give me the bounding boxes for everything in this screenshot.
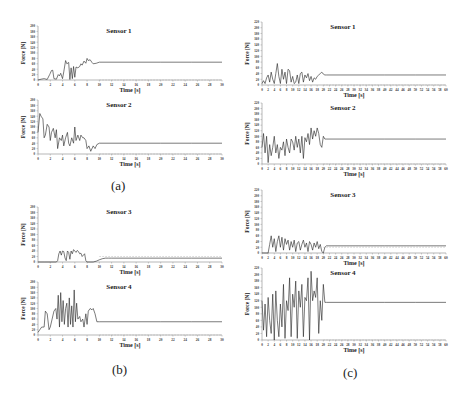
x-tick-label: 42 [389, 343, 393, 347]
x-tick-label: 56 [432, 256, 436, 260]
x-tick-label: 18 [316, 167, 320, 171]
y-tick-label: 180 [254, 279, 259, 283]
x-tick-label: 24 [334, 256, 338, 260]
x-tick-label: 18 [147, 265, 151, 269]
x-tick-label: 24 [184, 157, 188, 161]
x-tick-label: 46 [401, 88, 405, 92]
y-tick-label: 140 [30, 41, 35, 45]
x-tick-label: 60 [444, 343, 448, 347]
x-tick-label: 12 [110, 338, 114, 342]
x-tick-label: 38 [377, 256, 381, 260]
y-tick-label: 40 [32, 249, 36, 253]
y-tick-label: 140 [30, 222, 35, 226]
y-tick-label: 40 [256, 72, 260, 76]
x-tick-label: 48 [408, 167, 412, 171]
x-tick-label: 24 [184, 265, 188, 269]
x-tick-label: 26 [340, 343, 344, 347]
y-tick-label: 20 [256, 246, 260, 250]
x-tick-label: 34 [365, 88, 369, 92]
y-tick-label: 120 [254, 49, 259, 53]
chart-5: 0204060801001201401601802002200246810121… [244, 20, 448, 99]
x-tick-label: 22 [328, 256, 332, 260]
x-tick-label: 28 [208, 265, 212, 269]
y-tick-label: 0 [33, 78, 35, 82]
y-tick-label: 60 [32, 136, 36, 140]
x-tick-label: 22 [171, 83, 175, 87]
x-tick-label: 0 [261, 256, 263, 260]
y-tick-label: 40 [32, 323, 36, 327]
x-tick-label: 8 [86, 83, 88, 87]
x-tick-label: 14 [122, 157, 126, 161]
x-tick-label: 20 [159, 338, 163, 342]
x-tick-label: 0 [37, 83, 39, 87]
y-axis-label: Force [N] [244, 122, 250, 145]
x-tick-label: 6 [280, 88, 282, 92]
x-tick-label: 12 [110, 265, 114, 269]
y-axis-label: Force [N] [20, 42, 26, 65]
x-tick-label: 0 [261, 167, 263, 171]
x-tick-label: 14 [303, 343, 307, 347]
y-tick-label: 80 [256, 228, 260, 232]
chart-8: 0204060801001201401601802002200246810121… [244, 266, 448, 354]
y-tick-label: 180 [30, 104, 35, 108]
x-tick-label: 26 [196, 338, 200, 342]
x-tick-label: 52 [420, 343, 424, 347]
x-tick-label: 32 [358, 167, 362, 171]
y-tick-label: 80 [32, 312, 36, 316]
y-tick-label: 40 [32, 68, 36, 72]
y-tick-label: 120 [30, 120, 35, 124]
x-tick-label: 8 [286, 256, 288, 260]
y-tick-label: 60 [256, 146, 260, 150]
y-tick-label: 0 [33, 260, 35, 264]
x-tick-label: 36 [371, 343, 375, 347]
x-tick-label: 4 [62, 265, 64, 269]
x-tick-label: 54 [426, 167, 430, 171]
y-tick-label: 80 [256, 140, 260, 144]
y-tick-label: 20 [32, 328, 36, 332]
x-tick-label: 54 [426, 256, 430, 260]
x-tick-label: 58 [438, 167, 442, 171]
y-tick-label: 140 [254, 292, 259, 296]
x-tick-label: 40 [383, 256, 387, 260]
y-tick-label: 180 [254, 32, 259, 36]
x-tick-label: 30 [352, 256, 356, 260]
x-tick-label: 18 [147, 338, 151, 342]
x-tick-label: 12 [110, 83, 114, 87]
y-tick-label: 0 [257, 251, 259, 255]
x-tick-label: 44 [395, 343, 399, 347]
y-tick-label: 0 [33, 152, 35, 156]
x-tick-label: 36 [371, 88, 375, 92]
y-tick-label: 100 [254, 135, 259, 139]
y-tick-label: 120 [254, 217, 259, 221]
x-tick-label: 38 [377, 343, 381, 347]
x-tick-label: 48 [408, 88, 412, 92]
x-tick-label: 22 [328, 88, 332, 92]
x-tick-label: 8 [86, 157, 88, 161]
x-tick-label: 16 [134, 83, 138, 87]
x-tick-label: 8 [86, 338, 88, 342]
x-tick-label: 30 [352, 167, 356, 171]
chart-1: 0204060801001201401601802000246810121416… [20, 24, 224, 94]
y-tick-label: 180 [30, 30, 35, 34]
x-tick-label: 32 [358, 88, 362, 92]
x-tick-label: 42 [389, 167, 393, 171]
y-tick-label: 100 [30, 233, 35, 237]
x-tick-label: 0 [261, 88, 263, 92]
panel-label-a: (a) [111, 178, 125, 194]
x-tick-label: 56 [432, 88, 436, 92]
chart-title: Sensor 4 [106, 283, 132, 291]
panel-label-c: (c) [343, 365, 357, 381]
y-tick-label: 100 [254, 306, 259, 310]
x-tick-label: 30 [220, 83, 224, 87]
x-tick-label: 40 [383, 343, 387, 347]
x-tick-label: 12 [297, 343, 301, 347]
data-line [38, 58, 222, 80]
x-axis-label: Time [s] [343, 260, 364, 267]
chart-title: Sensor 4 [330, 269, 356, 277]
data-line [38, 290, 222, 332]
x-tick-label: 16 [309, 88, 313, 92]
x-tick-label: 28 [208, 338, 212, 342]
x-tick-label: 46 [401, 167, 405, 171]
x-tick-label: 2 [267, 88, 269, 92]
x-tick-label: 56 [432, 343, 436, 347]
